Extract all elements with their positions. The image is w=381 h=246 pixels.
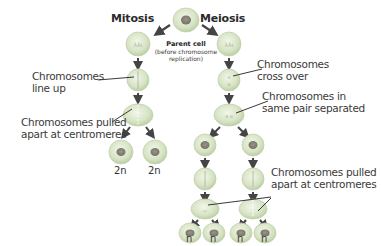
label-same-pair-separated: Chromosomes in same pair separated bbox=[262, 90, 365, 114]
ploidy-mitosis-1: 2n bbox=[114, 165, 127, 176]
meiosis-title: Meiosis bbox=[200, 12, 245, 25]
parent-cell-note-2: replication) bbox=[169, 55, 203, 62]
parent-cell-note-1: (before chromosome bbox=[155, 48, 218, 55]
label-chromosomes-line-up: Chromosomes line up bbox=[32, 70, 104, 94]
mitosis-title: Mitosis bbox=[111, 12, 154, 25]
label-chromosomes-cross-over: Chromosomes cross over bbox=[257, 58, 329, 82]
ploidy-meiosis-1: n bbox=[186, 233, 192, 244]
parent-cell-title: Parent cell bbox=[166, 40, 205, 48]
ploidy-meiosis-3: n bbox=[237, 233, 243, 244]
label-mitosis-chromosomes-pulled: Chromosomes pulled apart at centromeres bbox=[21, 116, 126, 140]
ploidy-meiosis-4: n bbox=[261, 233, 267, 244]
parent-cell-label: Parent cell (before chromosome replicati… bbox=[154, 40, 218, 62]
ploidy-meiosis-2: n bbox=[210, 233, 216, 244]
ploidy-mitosis-2: 2n bbox=[148, 165, 161, 176]
label-meiosis-chromosomes-pulled: Chromosomes pulled apart at centromeres bbox=[271, 166, 376, 190]
